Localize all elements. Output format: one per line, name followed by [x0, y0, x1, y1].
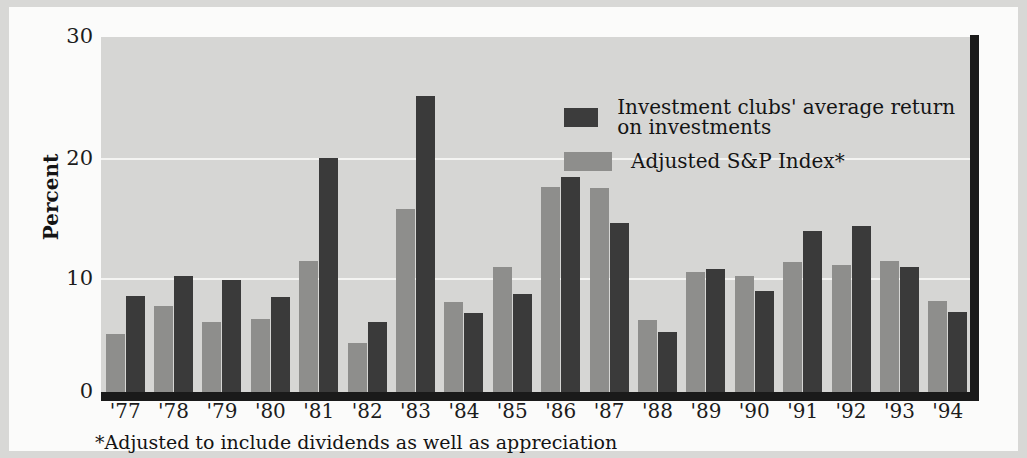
x-axis: '77'78'79'80'81'82'83'84'85'86'87'88'89'…	[101, 399, 972, 429]
bar-groups	[101, 37, 972, 392]
bar-group	[246, 37, 294, 392]
bar-group	[488, 37, 536, 392]
bar-clubs	[852, 226, 871, 392]
bar-clubs	[513, 294, 532, 392]
x-tick-label: '77	[101, 399, 149, 429]
x-tick-label: '86	[537, 399, 585, 429]
bar-sp	[299, 261, 318, 392]
chart-legend: Investment clubs' average return on inve…	[564, 97, 972, 185]
bar-group	[391, 37, 439, 392]
x-tick-label: '88	[633, 399, 681, 429]
bar-sp	[541, 187, 560, 392]
x-tick-label: '82	[343, 399, 391, 429]
bar-group	[440, 37, 488, 392]
bar-sp	[493, 267, 512, 392]
x-tick-label: '90	[730, 399, 778, 429]
bar-sp	[106, 334, 125, 392]
bar-sp	[832, 265, 851, 392]
bar-clubs	[803, 231, 822, 392]
bar-sp	[348, 343, 367, 392]
bar-clubs	[610, 223, 629, 392]
bar-clubs	[416, 96, 435, 392]
bar-group	[633, 37, 681, 392]
bar-clubs	[319, 158, 338, 392]
bar-group	[730, 37, 778, 392]
bar-sp	[735, 276, 754, 392]
bar-sp	[686, 272, 705, 392]
y-tick-30: 30	[33, 26, 93, 47]
bar-sp	[154, 306, 173, 392]
legend-item-clubs: Investment clubs' average return on inve…	[564, 97, 972, 137]
x-tick-label: '84	[440, 399, 488, 429]
bar-clubs	[126, 296, 145, 392]
bar-group	[778, 37, 826, 392]
bar-clubs	[222, 280, 241, 392]
bar-group	[585, 37, 633, 392]
bar-group	[682, 37, 730, 392]
bar-group	[343, 37, 391, 392]
chart-footnote: *Adjusted to include dividends as well a…	[95, 431, 617, 453]
bar-sp	[590, 188, 609, 392]
bar-group	[101, 37, 149, 392]
x-tick-label: '89	[682, 399, 730, 429]
figure-page: 30 20 10 0 Percent Investment clubs' ave…	[0, 0, 1027, 458]
x-tick-label: '78	[149, 399, 197, 429]
plot-area	[101, 37, 972, 392]
x-tick-label: '79	[198, 399, 246, 429]
x-tick-label: '93	[875, 399, 923, 429]
legend-swatch-clubs-icon	[564, 108, 598, 127]
bar-group	[924, 37, 972, 392]
bar-sp	[444, 302, 463, 392]
x-tick-label: '87	[585, 399, 633, 429]
bar-clubs	[706, 269, 725, 392]
bar-clubs	[174, 276, 193, 392]
bar-group	[149, 37, 197, 392]
bar-sp	[880, 261, 899, 392]
x-tick-label: '94	[924, 399, 972, 429]
y-tick-10: 10	[33, 268, 93, 289]
legend-label-sp: Adjusted S&P Index*	[631, 151, 845, 171]
bar-sp	[638, 320, 657, 392]
legend-swatch-sp-icon	[564, 152, 612, 171]
bar-sp	[396, 209, 415, 392]
bar-group	[827, 37, 875, 392]
bar-sp	[783, 262, 802, 392]
bar-clubs	[464, 313, 483, 392]
x-tick-label: '92	[827, 399, 875, 429]
bar-clubs	[900, 267, 919, 392]
bar-clubs	[948, 312, 967, 392]
plot-right-border	[970, 35, 979, 401]
y-axis-label: Percent	[39, 142, 63, 252]
y-tick-0: 0	[33, 381, 93, 402]
legend-label-clubs: Investment clubs' average return on inve…	[617, 97, 972, 137]
x-tick-label: '80	[246, 399, 294, 429]
legend-item-sp: Adjusted S&P Index*	[564, 151, 972, 171]
bar-sp	[928, 301, 947, 392]
bar-group	[875, 37, 923, 392]
x-tick-label: '81	[295, 399, 343, 429]
plot-area-wrapper: Investment clubs' average return on inve…	[101, 37, 972, 392]
x-tick-label: '91	[778, 399, 826, 429]
bar-clubs	[755, 291, 774, 392]
x-tick-label: '83	[391, 399, 439, 429]
figure-paper: 30 20 10 0 Percent Investment clubs' ave…	[9, 7, 1018, 451]
bar-group	[537, 37, 585, 392]
x-tick-label: '85	[488, 399, 536, 429]
bar-clubs	[658, 332, 677, 392]
bar-sp	[202, 322, 221, 392]
bar-clubs	[561, 177, 580, 392]
bar-group	[295, 37, 343, 392]
bar-clubs	[368, 322, 387, 392]
bar-group	[198, 37, 246, 392]
bar-clubs	[271, 297, 290, 392]
bar-sp	[251, 319, 270, 392]
